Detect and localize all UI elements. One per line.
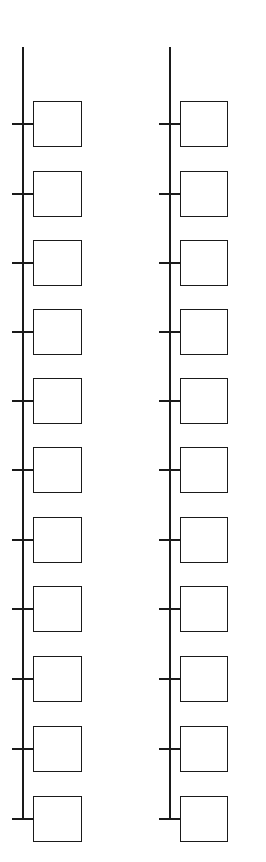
node-box <box>33 726 82 772</box>
connector-tick <box>159 400 180 402</box>
node-box <box>180 309 228 355</box>
connector-tick <box>159 262 180 264</box>
connector-tick <box>159 193 180 195</box>
node-box <box>180 517 228 563</box>
bus-line <box>22 47 24 820</box>
node-box <box>33 240 82 286</box>
connector-tick <box>12 818 33 820</box>
connector-tick <box>12 678 33 680</box>
connector-tick <box>12 469 33 471</box>
node-box <box>180 240 228 286</box>
connector-tick <box>12 262 33 264</box>
node-box <box>33 101 82 147</box>
node-box <box>33 656 82 702</box>
node-box <box>33 586 82 632</box>
bus-line <box>169 47 171 820</box>
node-box <box>33 378 82 424</box>
connector-tick <box>12 748 33 750</box>
connector-tick <box>159 678 180 680</box>
connector-tick <box>12 608 33 610</box>
node-box <box>180 171 228 217</box>
connector-tick <box>159 748 180 750</box>
connector-tick <box>159 331 180 333</box>
node-box <box>180 796 228 842</box>
connector-tick <box>159 469 180 471</box>
connector-tick <box>12 539 33 541</box>
connector-tick <box>12 123 33 125</box>
node-box <box>180 447 228 493</box>
connector-tick <box>12 331 33 333</box>
connector-tick <box>159 608 180 610</box>
node-box <box>180 726 228 772</box>
connector-tick <box>12 193 33 195</box>
node-box <box>180 378 228 424</box>
connector-tick <box>159 818 180 820</box>
node-box <box>33 796 82 842</box>
node-box <box>33 309 82 355</box>
node-box <box>180 656 228 702</box>
connector-tick <box>12 400 33 402</box>
node-box <box>33 447 82 493</box>
node-box <box>33 171 82 217</box>
node-box <box>180 586 228 632</box>
connector-tick <box>159 539 180 541</box>
node-box <box>180 101 228 147</box>
connector-tick <box>159 123 180 125</box>
node-box <box>33 517 82 563</box>
